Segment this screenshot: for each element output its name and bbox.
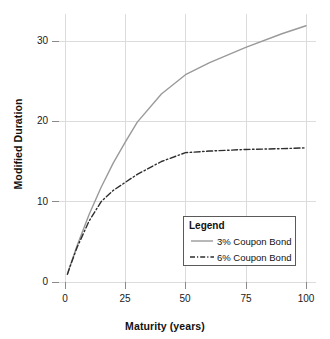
legend-item-3pct-coupon-bond: 3% Coupon Bond [189,233,291,249]
x-tick-label-75: 75 [231,293,261,304]
y-axis-title: Modified Duration [12,74,24,214]
y-axis-ticks [52,41,59,282]
legend-label-6pct-coupon-bond: 6% Coupon Bond [215,252,291,263]
legend-label-3pct-coupon-bond: 3% Coupon Bond [215,236,291,247]
x-tick-label-50: 50 [170,293,200,304]
x-tick-label-25: 25 [110,293,140,304]
chart-plot-area [0,0,330,339]
x-tick-label-100: 100 [291,293,321,304]
x-tick-label-0: 0 [50,293,80,304]
legend: Legend 3% Coupon Bond 6% Coupon Bond [183,216,296,266]
y-tick-label-0: 0 [22,276,48,287]
legend-swatch-dash-dot-line-icon [189,252,215,262]
y-tick-label-20: 20 [22,115,48,126]
y-tick-label-30: 30 [22,35,48,46]
legend-title: Legend [189,220,291,232]
chart-container: 0 10 20 30 0 25 50 75 100 Maturity (year… [0,0,330,339]
x-axis-ticks [65,282,306,289]
legend-item-6pct-coupon-bond: 6% Coupon Bond [189,249,291,265]
x-axis-title: Maturity (years) [0,320,330,332]
legend-swatch-solid-line-icon [189,236,215,246]
y-tick-label-10: 10 [22,196,48,207]
